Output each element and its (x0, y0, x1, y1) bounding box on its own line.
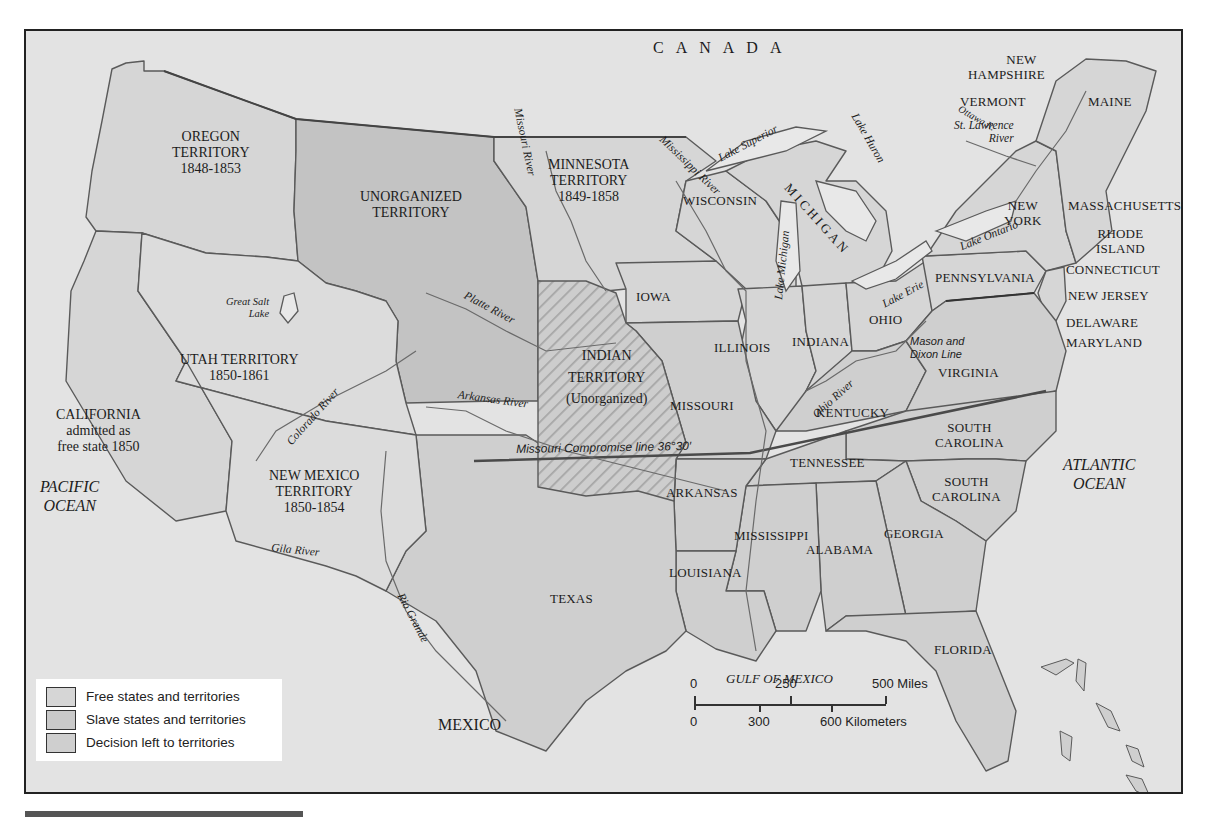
scale-line (694, 704, 886, 706)
label-arkansas: ARKANSAS (666, 486, 738, 501)
legend-label-slave: Slave states and territories (86, 712, 246, 727)
map-frame: CANADA MEXICO PACIFICOCEAN ATLANTICOCEAN… (24, 29, 1183, 794)
scale-km-0: 0 (690, 714, 697, 729)
scale-tick (885, 696, 887, 704)
decorative-rule (25, 811, 303, 817)
label-alabama: ALABAMA (806, 543, 873, 558)
legend-swatch-free (46, 687, 76, 707)
label-new-jersey: NEW JERSEY (1068, 289, 1149, 304)
label-utah-territory: UTAH TERRITORY1850-1861 (180, 352, 299, 384)
legend-label-decision: Decision left to territories (86, 735, 235, 750)
legend-item-decision: Decision left to territories (46, 731, 282, 754)
label-south-carolina: SOUTHCAROLINA (932, 475, 1001, 505)
label-georgia: GEORGIA (884, 527, 944, 542)
label-virginia: VIRGINIA (938, 366, 999, 381)
label-minnesota-territory: MINNESOTATERRITORY1849-1858 (548, 157, 629, 205)
label-texas: TEXAS (550, 592, 593, 607)
scale-miles-250: 250 (775, 676, 797, 691)
label-delaware: DELAWARE (1066, 316, 1138, 331)
label-canada: CANADA (653, 39, 793, 57)
label-mississippi: MISSISSIPPI (734, 529, 808, 544)
label-atlantic-ocean: ATLANTICOCEAN (1063, 455, 1135, 493)
island (1096, 703, 1120, 731)
label-st-lawrence-river: St. LawrenceRiver (954, 119, 1014, 145)
legend-item-slave: Slave states and territories (46, 708, 282, 731)
label-missouri: MISSOURI (670, 399, 734, 414)
label-pennsylvania: PENNSYLVANIA (935, 271, 1035, 286)
scale-tick (694, 696, 696, 710)
label-pacific-ocean: PACIFICOCEAN (40, 477, 99, 515)
scale-miles-500: 500 Miles (872, 676, 928, 691)
legend-swatch-decision (46, 733, 76, 753)
legend-label-free: Free states and territories (86, 689, 240, 704)
label-illinois: ILLINOIS (714, 341, 770, 356)
label-indian-territory: INDIANTERRITORY(Unorganized) (566, 345, 647, 410)
label-florida: FLORIDA (934, 643, 992, 658)
map-legend: Free states and territories Slave states… (36, 679, 282, 761)
label-mexico: MEXICO (438, 716, 501, 734)
label-unorganized-territory: UNORGANIZEDTERRITORY (360, 189, 462, 221)
label-tennessee: TENNESSEE (790, 456, 865, 471)
label-connecticut: CONNECTICUT (1066, 263, 1160, 278)
legend-item-free: Free states and territories (46, 685, 282, 708)
label-ohio: OHIO (869, 313, 902, 328)
label-louisiana: LOUISIANA (669, 566, 742, 581)
scale-tick (790, 696, 792, 704)
scale-miles-0: 0 (690, 676, 697, 691)
label-great-salt-lake: Great SaltLake (226, 296, 269, 320)
legend-swatch-slave (46, 710, 76, 730)
scale-bar: 0 250 500 Miles 0 300 600 Kilometers (690, 676, 950, 736)
label-new-hampshire: NEWHAMPSHIRE (968, 53, 1045, 83)
label-mason-dixon-line: Mason andDixon Line (910, 335, 964, 360)
label-maryland: MARYLAND (1066, 336, 1142, 351)
label-california: CALIFORNIAadmitted asfree state 1850 (56, 407, 141, 455)
scale-km-600: 600 Kilometers (820, 714, 907, 729)
label-wisconsin: WISCONSIN (683, 194, 757, 209)
label-oregon-territory: OREGONTERRITORY1848-1853 (172, 129, 250, 177)
label-indiana: INDIANA (792, 335, 849, 350)
label-maine: MAINE (1088, 95, 1132, 110)
label-new-mexico-territory: NEW MEXICOTERRITORY1850-1854 (269, 468, 359, 516)
island (1126, 745, 1144, 767)
scale-km-300: 300 (748, 714, 770, 729)
label-iowa: IOWA (636, 290, 671, 305)
label-north-carolina: SOUTHCAROLINA (935, 421, 1004, 451)
island (1041, 659, 1074, 675)
scale-tick (759, 704, 761, 712)
label-massachusetts: MASSACHUSETTS (1068, 199, 1181, 214)
label-rhode-island: RHODEISLAND (1096, 227, 1145, 257)
island (1126, 775, 1150, 794)
island (1076, 659, 1086, 691)
scale-tick (831, 704, 833, 712)
island (1060, 731, 1072, 761)
